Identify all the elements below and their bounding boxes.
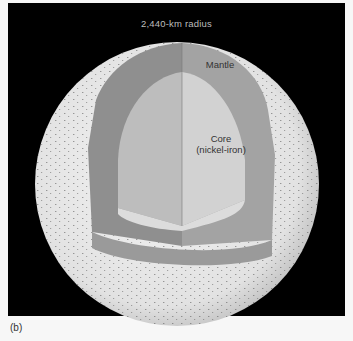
figure-caption: (b) [10,322,22,333]
core-label-line1: Core [186,133,256,144]
planet-cutaway-diagram [0,0,353,341]
core-label-line2: (nickel-iron) [186,144,256,155]
mantle-label: Mantle [195,59,245,70]
core-label: Core (nickel-iron) [186,133,256,155]
radius-label: 2,440-km radius [0,18,353,29]
